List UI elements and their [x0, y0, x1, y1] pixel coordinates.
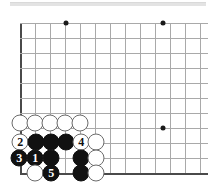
grid-line-horizontal: [20, 98, 208, 99]
star-point-upper-right: [161, 21, 166, 26]
grid-line-horizontal: [20, 53, 208, 54]
grid-line-horizontal: [20, 23, 208, 24]
move-number-label: 2: [17, 136, 23, 148]
move-number-label: 5: [48, 167, 54, 179]
white-stone: [88, 165, 105, 182]
white-stone: [88, 134, 105, 151]
move-number-label: 4: [78, 136, 84, 148]
top-divider-rule: [10, 2, 206, 6]
grid-line-horizontal: [20, 83, 208, 84]
go-board-diagram: 24315: [0, 0, 215, 190]
grid-line-horizontal: [20, 38, 208, 39]
white-stone: [27, 165, 44, 182]
move-number-label: 1: [32, 152, 38, 164]
star-point-upper-left: [64, 21, 69, 26]
move-stone-5: 5: [43, 165, 60, 182]
move-number-label: 3: [16, 152, 22, 164]
white-stone: [72, 115, 89, 132]
grid-line-horizontal: [20, 68, 208, 69]
move-stone-2: 2: [12, 134, 29, 151]
move-stone-3: 3: [11, 150, 28, 167]
star-point-center-right: [161, 126, 166, 131]
